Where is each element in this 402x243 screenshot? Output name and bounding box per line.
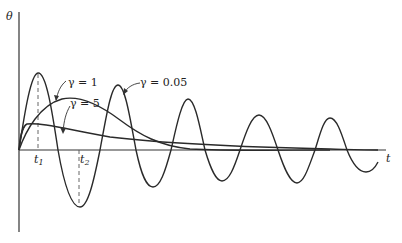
gamma-1-label: γ = 1 xyxy=(68,76,98,89)
t1-label: t1 xyxy=(34,153,44,167)
damped-oscillation-figure: θ t γ = 1 γ = 5 γ = 0.05 t1 t2 xyxy=(0,0,402,243)
curve-gamma-5 xyxy=(19,124,378,150)
theta-axis-label: θ xyxy=(6,10,13,23)
t2-label: t2 xyxy=(80,153,90,167)
time-axis-label: t xyxy=(386,152,391,165)
gamma-5-label: γ = 5 xyxy=(70,97,100,110)
gamma-0.05-label: γ = 0.05 xyxy=(140,76,187,89)
plot-canvas: θ t γ = 1 γ = 5 γ = 0.05 t1 t2 xyxy=(0,0,402,243)
curve-gamma-0.05 xyxy=(19,73,378,207)
gamma-5-arrowhead xyxy=(60,127,66,134)
